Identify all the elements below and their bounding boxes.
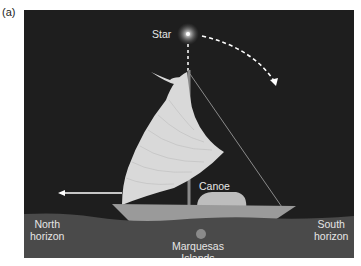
- north-horizon-label: North horizon: [30, 218, 64, 242]
- north-horizon-line2: horizon: [30, 230, 64, 242]
- south-horizon-line1: South: [314, 218, 348, 230]
- star-path-arrow: [202, 36, 278, 86]
- islands-line1: Marquesas: [172, 240, 224, 252]
- south-horizon-label: South horizon: [314, 218, 348, 242]
- diagram-illustration: [24, 10, 354, 258]
- islands-line2: Islands: [172, 252, 224, 258]
- north-horizon-line1: North: [30, 218, 64, 230]
- star-label: Star: [152, 28, 171, 40]
- south-horizon-line2: horizon: [314, 230, 348, 242]
- diagram-panel: Star Canoe North horizon South horizon M…: [24, 10, 354, 258]
- canoe-label: Canoe: [199, 180, 230, 192]
- star-icon: [177, 23, 199, 45]
- north-direction-arrow: [58, 190, 122, 196]
- marquesas-islands-label: Marquesas Islands: [172, 240, 224, 258]
- panel-label: (a): [2, 6, 15, 18]
- island-marker: [196, 229, 206, 239]
